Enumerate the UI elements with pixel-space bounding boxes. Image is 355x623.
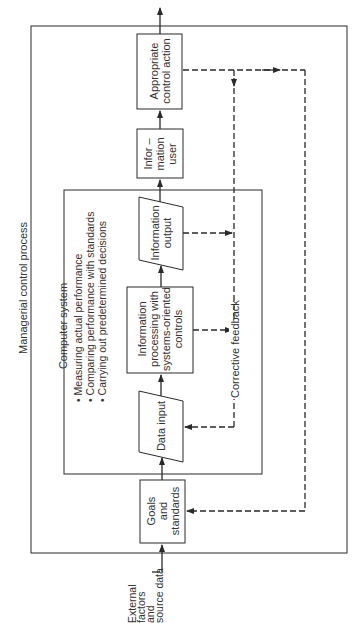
- bullet-item: • Carrying out predetermined decisions: [96, 202, 108, 402]
- bullet-item: • Measuring actual performance: [72, 202, 84, 402]
- computer-system-bullets: • Measuring actual performance • Compari…: [72, 202, 108, 402]
- goals-label: Goals and standards: [145, 480, 181, 543]
- corrective-feedback-label: Corrective feedback: [229, 321, 241, 399]
- output-label: Information output: [149, 200, 173, 266]
- managerial-process-label: Managerial control process: [17, 224, 29, 354]
- user-label: Infor – mation user: [142, 130, 178, 178]
- action-label: Appropriate control action: [148, 34, 172, 109]
- data-input-label: Data input: [155, 391, 167, 461]
- external-input-label: External factors and source data: [128, 561, 164, 623]
- computer-system-title: Computer system: [57, 281, 69, 371]
- bullet-item: • Comparing performance with standards: [84, 202, 96, 402]
- processing-label: Information processing with systems-orie…: [136, 286, 184, 372]
